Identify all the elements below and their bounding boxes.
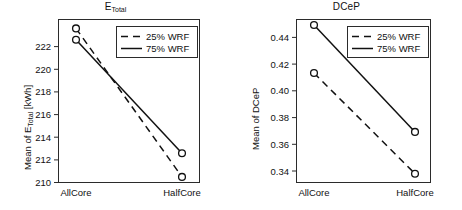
y-tick-label: 0.34 bbox=[271, 166, 290, 177]
x-category-label-allcore: AllCore bbox=[298, 187, 329, 198]
data-point-marker bbox=[73, 25, 80, 32]
x-category-label-halfcore: HalfCore bbox=[396, 187, 434, 198]
data-point-marker bbox=[412, 170, 419, 177]
plot-svg-dcep: 0.34 0.36 0.38 0.40 0.42 0.44 AllCore Ha… bbox=[231, 0, 462, 210]
interaction-plot-figure: ETotal Mean of ETotal [kWh] 210 212 bbox=[0, 0, 462, 210]
legend-label-25-wrf: 25% WRF bbox=[377, 31, 420, 42]
legend-dcep: 25% WRF 75% WRF bbox=[348, 27, 429, 58]
y-tick-label: 0.38 bbox=[271, 112, 290, 123]
y-tick-label: 212 bbox=[35, 154, 51, 165]
y-tick-label: 0.36 bbox=[271, 139, 290, 150]
data-point-marker bbox=[412, 129, 419, 136]
panel-etotal: ETotal Mean of ETotal [kWh] 210 212 bbox=[0, 0, 231, 210]
y-tick-label: 218 bbox=[35, 86, 51, 97]
data-point-marker bbox=[311, 70, 318, 77]
y-tick-label: 0.40 bbox=[271, 85, 290, 96]
data-point-marker bbox=[179, 174, 186, 181]
legend-label-25-wrf: 25% WRF bbox=[146, 31, 189, 42]
y-axis-tick-labels-etotal: 210 212 214 216 218 220 222 bbox=[35, 41, 51, 188]
y-axis-tick-labels-dcep: 0.34 0.36 0.38 0.40 0.42 0.44 bbox=[271, 32, 290, 177]
legend-label-75-wrf: 75% WRF bbox=[146, 43, 189, 54]
legend-label-75-wrf: 75% WRF bbox=[377, 43, 420, 54]
y-axis-ticks-dcep bbox=[292, 37, 297, 171]
plot-svg-etotal: 210 212 214 216 218 220 222 AllCore Half… bbox=[0, 0, 231, 210]
y-tick-label: 0.42 bbox=[271, 59, 290, 70]
y-tick-label: 0.44 bbox=[271, 32, 290, 43]
y-tick-label: 216 bbox=[35, 109, 51, 120]
y-tick-label: 222 bbox=[35, 41, 51, 52]
x-category-label-allcore: AllCore bbox=[60, 187, 91, 198]
y-axis-ticks-etotal bbox=[54, 47, 59, 183]
legend-etotal: 25% WRF 75% WRF bbox=[117, 27, 198, 58]
x-category-label-halfcore: HalfCore bbox=[163, 187, 201, 198]
y-tick-label: 214 bbox=[35, 132, 51, 143]
panel-dcep: DCeP Mean of DCeP 0.34 0.36 0.38 0. bbox=[231, 0, 462, 210]
data-point-marker bbox=[73, 36, 80, 43]
y-tick-label: 210 bbox=[35, 177, 51, 188]
data-point-marker bbox=[311, 22, 318, 29]
data-point-marker bbox=[179, 150, 186, 157]
y-tick-label: 220 bbox=[35, 64, 51, 75]
